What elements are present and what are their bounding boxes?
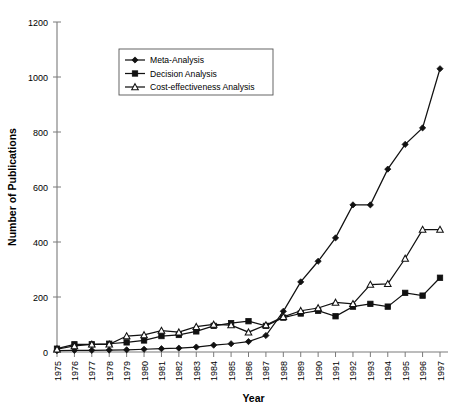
- data-point-marker: [367, 202, 373, 208]
- x-tick-label: 1996: [418, 361, 428, 381]
- y-tick-label: 1000: [28, 73, 48, 83]
- data-point-marker: [437, 275, 442, 280]
- y-tick-label: 1200: [28, 18, 48, 28]
- data-point-marker: [420, 293, 425, 298]
- x-tick-label: 1978: [105, 361, 115, 381]
- chart-canvas: 0200400600800100012001975197619771978197…: [0, 0, 469, 415]
- y-tick-label: 0: [43, 348, 48, 358]
- x-tick-label: 1994: [383, 361, 393, 381]
- x-tick-label: 1992: [348, 361, 358, 381]
- x-tick-label: 1987: [261, 361, 271, 381]
- x-tick-label: 1976: [70, 361, 80, 381]
- publications-line-chart: 0200400600800100012001975197619771978197…: [0, 0, 469, 415]
- legend-marker-icon: [132, 71, 137, 76]
- x-tick-label: 1977: [87, 361, 97, 381]
- legend-label: Meta-Analysis: [150, 55, 204, 65]
- x-tick-label: 1982: [174, 361, 184, 381]
- data-point-marker: [437, 66, 443, 72]
- x-tick-label: 1986: [244, 361, 254, 381]
- data-point-marker: [141, 338, 146, 343]
- data-point-marker: [141, 346, 147, 352]
- y-axis-title: Number of Publications: [6, 128, 18, 246]
- data-point-marker: [193, 344, 199, 350]
- x-tick-label: 1988: [279, 361, 289, 381]
- x-tick-label: 1983: [192, 361, 202, 381]
- x-tick-label: 1984: [209, 361, 219, 381]
- x-tick-label: 1989: [296, 361, 306, 381]
- x-tick-label: 1995: [401, 361, 411, 381]
- x-tick-label: 1975: [53, 361, 63, 381]
- x-tick-label: 1979: [122, 361, 132, 381]
- x-tick-label: 1991: [331, 361, 341, 381]
- x-axis-title: Year: [242, 392, 264, 404]
- data-point-marker: [228, 341, 234, 347]
- y-tick-label: 400: [33, 238, 48, 248]
- x-tick-label: 1985: [227, 361, 237, 381]
- y-tick-label: 800: [33, 128, 48, 138]
- data-point-marker: [211, 342, 217, 348]
- data-point-marker: [402, 290, 407, 295]
- x-tick-label: 1990: [314, 361, 324, 381]
- y-tick-label: 200: [33, 293, 48, 303]
- data-point-marker: [368, 301, 373, 306]
- x-tick-label: 1997: [436, 361, 446, 381]
- data-point-marker: [245, 338, 251, 344]
- data-point-marker: [350, 202, 356, 208]
- data-point-marker: [333, 314, 338, 319]
- data-point-marker: [176, 345, 182, 351]
- x-tick-label: 1980: [140, 361, 150, 381]
- x-tick-label: 1981: [157, 361, 167, 381]
- data-point-marker: [124, 340, 129, 345]
- y-tick-label: 600: [33, 183, 48, 193]
- data-point-marker: [159, 333, 164, 338]
- x-tick-label: 1993: [366, 361, 376, 381]
- data-point-marker: [246, 319, 251, 324]
- data-point-marker: [158, 346, 164, 352]
- series-line-meta-analysis: [57, 69, 440, 351]
- legend-label: Decision Analysis: [150, 69, 217, 79]
- legend-label: Cost-effectiveness Analysis: [150, 82, 254, 92]
- data-point-marker: [385, 304, 390, 309]
- data-point-marker: [402, 255, 409, 261]
